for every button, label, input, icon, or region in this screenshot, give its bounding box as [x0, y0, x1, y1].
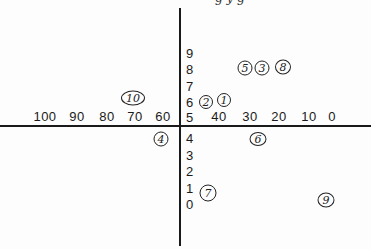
y-axis-label: 9 — [186, 47, 193, 60]
y-axis-label: 5 — [186, 111, 193, 124]
x-axis-label: 0 — [328, 110, 336, 123]
circled-point-8: 8 — [275, 60, 291, 75]
y-axis-label: 0 — [186, 198, 193, 211]
y-axis-label: 8 — [186, 63, 193, 76]
y-axis-label: 6 — [186, 96, 193, 109]
vertical-axis — [179, 8, 181, 246]
y-axis-label: 7 — [186, 80, 193, 93]
x-axis-label: 60 — [155, 110, 170, 123]
coordinate-diagram: g y g 10090807060403020100 9876543210 10… — [0, 0, 371, 249]
y-axis-label: 1 — [186, 182, 193, 195]
x-axis-label: 70 — [127, 110, 142, 123]
circled-point-6: 6 — [250, 132, 267, 146]
x-axis-label: 100 — [33, 110, 56, 123]
circled-point-2: 2 — [199, 95, 213, 109]
circled-point-9: 9 — [318, 193, 335, 208]
circled-point-4: 4 — [154, 132, 169, 147]
circled-point-5: 5 — [238, 61, 253, 76]
x-axis-label: 10 — [301, 110, 316, 123]
circled-point-7: 7 — [200, 185, 217, 202]
circled-point-3: 3 — [255, 61, 270, 76]
x-axis-label: 20 — [271, 110, 286, 123]
cut-off-text: g y g — [215, 0, 245, 5]
y-axis-label: 3 — [186, 149, 193, 162]
x-axis-label: 90 — [69, 110, 84, 123]
x-axis-label: 80 — [99, 110, 114, 123]
x-axis-label: 30 — [242, 110, 257, 123]
y-axis-label: 2 — [186, 165, 193, 178]
circled-point-1: 1 — [217, 93, 231, 107]
y-axis-label: 4 — [186, 132, 193, 145]
circled-point-10: 10 — [121, 91, 145, 106]
horizontal-axis — [0, 125, 371, 127]
x-axis-label: 40 — [211, 110, 226, 123]
